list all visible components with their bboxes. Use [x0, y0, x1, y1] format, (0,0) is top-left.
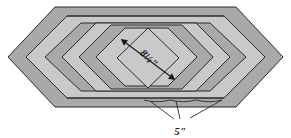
diagram-canvas: 8½" 5" [0, 0, 291, 138]
border-width-dimension: 5" [174, 125, 186, 137]
quilt-block-diagram: 8½" 5" [0, 0, 291, 138]
